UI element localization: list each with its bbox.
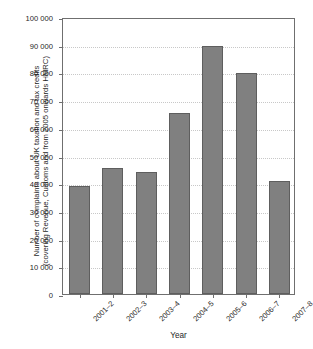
x-axis-tick-label: 2002–3 xyxy=(124,299,148,323)
bar xyxy=(202,46,223,294)
x-axis-tick-labels: 2001–22002–32003–42004–52005–62006–72007… xyxy=(62,295,295,335)
y-axis-tick-label: 80 000 xyxy=(30,69,53,78)
y-axis-tick-label: 50 000 xyxy=(30,152,53,161)
x-axis-tick-label: 2007–8 xyxy=(291,299,313,323)
y-axis-tick-label: 70 000 xyxy=(30,97,53,106)
x-axis-tick-label: 2001–2 xyxy=(91,299,115,323)
y-axis-tick-label: 20 000 xyxy=(30,235,53,244)
x-axis-title: Year xyxy=(62,331,295,340)
bar-chart: Number of complaints about UK taxation a… xyxy=(0,0,313,349)
y-axis-tick-label: 10 000 xyxy=(30,263,53,272)
x-axis-tick-label: 2003–4 xyxy=(158,299,182,323)
plot-area xyxy=(62,18,295,295)
bar xyxy=(169,113,190,294)
y-axis-tick-label: 40 000 xyxy=(30,180,53,189)
bar xyxy=(69,186,90,294)
y-axis-tick-label: 0 xyxy=(49,291,53,300)
bars-layer xyxy=(63,19,294,294)
bar xyxy=(236,73,257,294)
y-axis-tick-label: 30 000 xyxy=(30,207,53,216)
bar xyxy=(102,168,123,294)
y-axis-tick-label: 100 000 xyxy=(26,14,53,23)
x-axis-tick-label: 2004–5 xyxy=(191,299,215,323)
bar xyxy=(269,181,290,294)
y-axis-tick-labels: 010 00020 00030 00040 00050 00060 00070 … xyxy=(0,0,56,349)
y-axis-tick-label: 60 000 xyxy=(30,124,53,133)
y-axis-tick-label: 90 000 xyxy=(30,41,53,50)
x-axis-tick-label: 2005–6 xyxy=(224,299,248,323)
bar xyxy=(136,172,157,294)
x-axis-tick-label: 2006–7 xyxy=(257,299,281,323)
